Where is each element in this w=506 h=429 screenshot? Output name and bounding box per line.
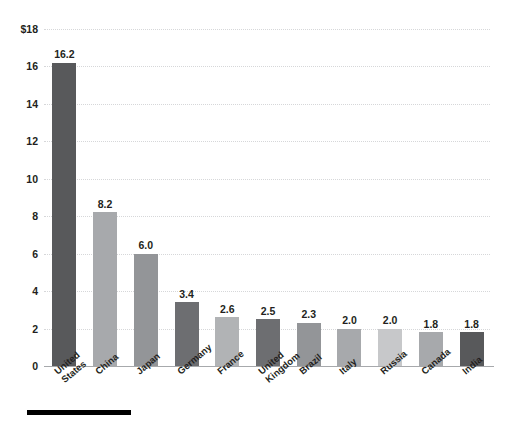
- y-axis-tick-label: $18: [4, 24, 38, 35]
- bars-layer: 16.28.26.03.42.62.52.32.02.01.81.8: [44, 29, 492, 366]
- bar[interactable]: [134, 254, 158, 366]
- category-labels: United StatesChinaJapanGermanyFranceUnit…: [44, 368, 492, 426]
- bar-value-label: 2.6: [220, 304, 235, 315]
- y-axis-tick-label: 6: [4, 248, 38, 259]
- y-axis-tick-label: 2: [4, 323, 38, 334]
- y-axis-ticks: $181614121086420: [4, 29, 44, 366]
- bar-group[interactable]: 2.0: [337, 29, 361, 366]
- bar-group[interactable]: 6.0: [134, 29, 158, 366]
- footer-rule: [27, 410, 131, 415]
- y-axis-tick-label: 16: [4, 61, 38, 72]
- bar[interactable]: [52, 63, 76, 366]
- bar-value-label: 2.0: [342, 315, 357, 326]
- bar-value-label: 1.8: [424, 319, 439, 330]
- y-axis-tick-label: 12: [4, 136, 38, 147]
- bar-value-label: 3.4: [179, 289, 194, 300]
- bar-group[interactable]: 2.6: [215, 29, 239, 366]
- bar-value-label: 2.5: [261, 306, 276, 317]
- bar[interactable]: [93, 212, 117, 366]
- bar-chart: $181614121086420 16.28.26.03.42.62.52.32…: [0, 0, 506, 429]
- bar-value-label: 6.0: [139, 240, 154, 251]
- bar-group[interactable]: 3.4: [175, 29, 199, 366]
- bar-value-label: 2.3: [301, 309, 316, 320]
- y-axis-tick-label: 14: [4, 99, 38, 110]
- bar-group[interactable]: 8.2: [93, 29, 117, 366]
- y-axis-tick-label: 10: [4, 174, 38, 185]
- bar-group[interactable]: 2.0: [378, 29, 402, 366]
- bar-group[interactable]: 1.8: [419, 29, 443, 366]
- bar-value-label: 8.2: [98, 199, 113, 210]
- bar-value-label: 16.2: [54, 49, 74, 60]
- bar-group[interactable]: 2.3: [297, 29, 321, 366]
- bar-value-label: 1.8: [464, 319, 479, 330]
- y-axis-tick-label: 4: [4, 286, 38, 297]
- bar-group[interactable]: 16.2: [52, 29, 76, 366]
- bar-group[interactable]: 1.8: [460, 29, 484, 366]
- y-axis-tick-label: 0: [4, 361, 38, 372]
- y-axis-tick-label: 8: [4, 211, 38, 222]
- bar-group[interactable]: 2.5: [256, 29, 280, 366]
- bar-value-label: 2.0: [383, 315, 398, 326]
